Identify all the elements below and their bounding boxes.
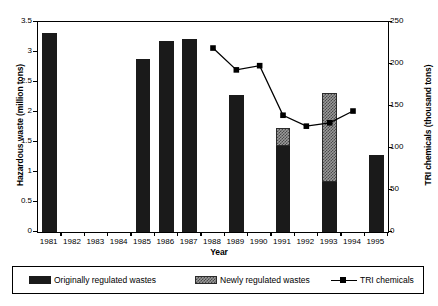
y-axis-right-tick-mark <box>388 189 392 190</box>
y-axis-right-tick-mark <box>388 21 392 22</box>
y-axis-right-tick-mark <box>388 63 392 64</box>
legend-item-tri-chemicals: TRI chemicals <box>331 275 414 285</box>
chart-legend: Originally regulated wastes Newly regula… <box>12 266 424 294</box>
legend-label: TRI chemicals <box>360 275 414 285</box>
tri-chemicals-marker <box>304 123 310 129</box>
legend-item-originally-regulated-wastes: Originally regulated wastes <box>29 275 156 285</box>
y-axis-left-tick-mark <box>33 111 37 112</box>
y-axis-right-tick-mark <box>388 105 392 106</box>
tri-chemicals-marker <box>234 67 240 73</box>
y-axis-left-tick-mark <box>33 21 37 22</box>
tri-chemicals-marker <box>350 108 356 114</box>
y-axis-right-tick-mark <box>388 147 392 148</box>
legend-item-newly-regulated-wastes: Newly regulated wastes <box>195 275 310 285</box>
legend-label: Newly regulated wastes <box>220 275 310 285</box>
tri-chemicals-marker <box>257 63 263 69</box>
tri-chemicals-marker <box>210 45 216 51</box>
y-axis-left-tick-mark <box>33 171 37 172</box>
tri-chemicals-marker <box>327 120 333 126</box>
y-axis-left-tick-mark <box>33 141 37 142</box>
y-axis-right-tick-mark <box>388 231 392 232</box>
y-axis-left-tick-mark <box>33 231 37 232</box>
plot-area <box>37 21 389 233</box>
legend-label: Originally regulated wastes <box>54 275 156 285</box>
legend-line-marker-icon <box>331 276 357 285</box>
legend-swatch-black-icon <box>29 276 51 284</box>
tri-chemicals-line-layer <box>38 22 388 232</box>
x-axis-tick-label: 1995 <box>357 238 393 246</box>
y-axis-left-tick-mark <box>33 201 37 202</box>
tri-chemicals-marker <box>280 112 286 118</box>
chart-figure: Hazardous waste (million tons) TRI chemi… <box>0 0 438 306</box>
y-axis-left-tick-mark <box>33 81 37 82</box>
y-axis-left-tick-mark <box>33 51 37 52</box>
legend-swatch-gray-hatch-icon <box>195 276 217 284</box>
